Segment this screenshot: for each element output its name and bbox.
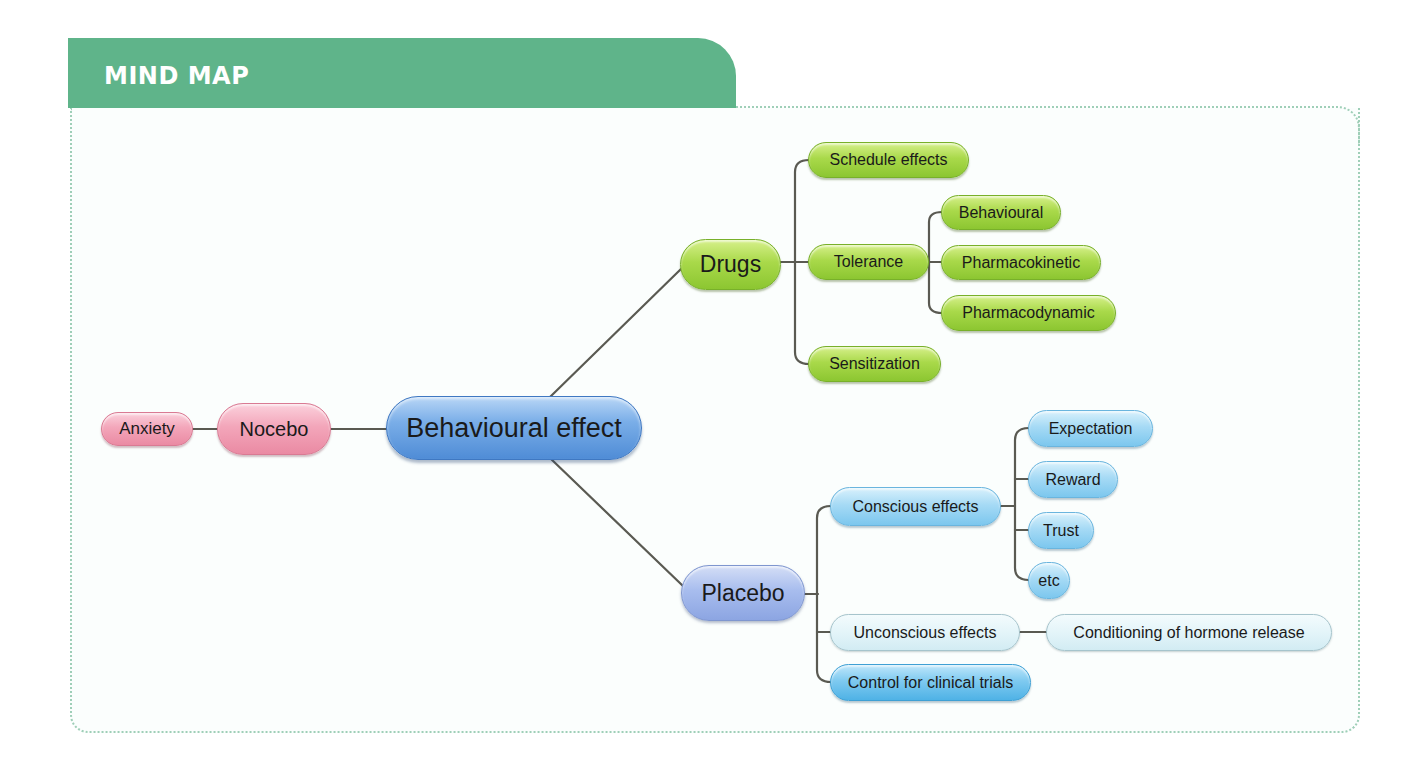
node-behavioural-effect[interactable]: Behavioural effect [386,396,642,460]
node-nocebo[interactable]: Nocebo [217,403,331,455]
node-behavioural[interactable]: Behavioural [941,195,1061,230]
connector-root-placebo [550,458,683,586]
node-sensitization[interactable]: Sensitization [808,346,941,382]
node-pharmacodynamic[interactable]: Pharmacodynamic [941,295,1116,331]
node-conscious-effects[interactable]: Conscious effects [830,487,1001,526]
connector-root-drugs [550,268,682,397]
node-reward[interactable]: Reward [1028,461,1118,498]
node-drugs[interactable]: Drugs [680,239,781,290]
node-placebo[interactable]: Placebo [681,565,805,621]
node-etc[interactable]: etc [1028,562,1070,599]
node-expectation[interactable]: Expectation [1028,410,1153,447]
node-anxiety[interactable]: Anxiety [101,412,193,446]
node-control-clinical-trials[interactable]: Control for clinical trials [830,664,1031,701]
node-trust[interactable]: Trust [1028,512,1094,549]
node-conditioning-hormone-release[interactable]: Conditioning of hormone release [1046,614,1332,651]
node-tolerance[interactable]: Tolerance [808,244,929,280]
node-pharmacokinetic[interactable]: Pharmacokinetic [941,245,1101,280]
node-schedule-effects[interactable]: Schedule effects [808,142,969,178]
node-unconscious-effects[interactable]: Unconscious effects [830,614,1020,651]
